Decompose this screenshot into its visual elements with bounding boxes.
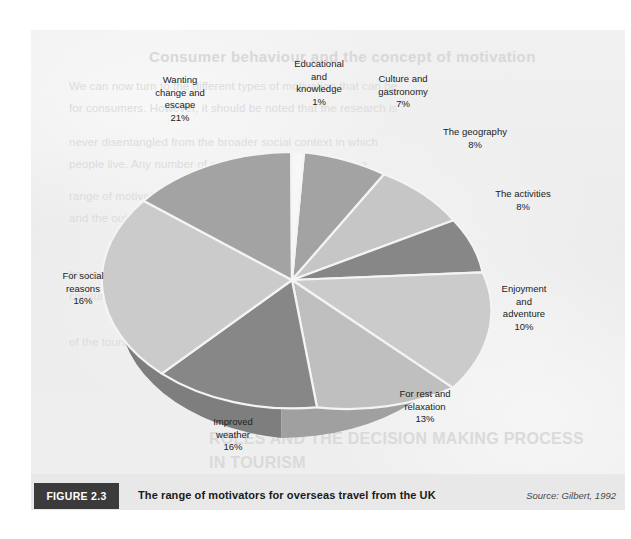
slice-label-culture-and-gastronomy: Culture and gastronomy 7% bbox=[361, 73, 445, 111]
scanned-page-panel: Consumer behaviour and the concept of mo… bbox=[31, 30, 625, 510]
pie-chart: Educational and knowledge 1% Culture and… bbox=[31, 30, 625, 460]
figure-source-attribution: Source: Gilbert, 1992 bbox=[526, 490, 616, 501]
slice-label-educational-and-knowledge: Educational and knowledge 1% bbox=[276, 58, 362, 108]
figure-caption-bar: FIGURE 2.3 The range of motivators for o… bbox=[31, 474, 625, 510]
figure-caption-title: The range of motivators for overseas tra… bbox=[138, 489, 436, 501]
figure-number-badge: FIGURE 2.3 bbox=[34, 483, 119, 509]
pie-chart-svg bbox=[91, 110, 511, 440]
pie-top-face bbox=[102, 152, 491, 409]
